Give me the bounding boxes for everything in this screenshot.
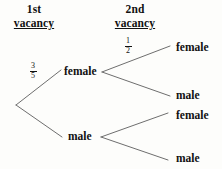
probability-denominator: 5 <box>26 72 40 80</box>
probability-numerator: 1 <box>121 37 135 45</box>
header-first-vacancy: 1st vacancy <box>0 4 68 29</box>
node-stage2-male-1: male <box>176 90 200 102</box>
probability-numerator: 3 <box>26 62 40 70</box>
header-first-vacancy-line2: vacancy <box>0 18 68 30</box>
header-second-vacancy-line2: vacancy <box>100 18 170 30</box>
probability-denominator: 2 <box>121 47 135 55</box>
branch-female-to-male <box>102 72 170 96</box>
branch-root-to-male <box>16 105 62 137</box>
branch-female-to-female <box>102 46 170 72</box>
node-stage2-male-2: male <box>176 153 200 165</box>
branch-male-to-female <box>101 113 168 137</box>
probability-label-one-half: 1 2 <box>121 37 135 55</box>
node-stage2-female-1: female <box>176 42 209 54</box>
header-first-vacancy-line1: 1st <box>0 4 68 16</box>
header-second-vacancy-line1: 2nd <box>100 4 170 16</box>
branch-male-to-male <box>101 137 168 160</box>
header-second-vacancy: 2nd vacancy <box>100 4 170 29</box>
node-stage2-female-2: female <box>176 110 209 122</box>
probability-label-three-fifths: 3 5 <box>26 62 40 80</box>
node-stage1-male: male <box>68 131 92 143</box>
node-stage1-female: female <box>64 66 97 78</box>
probability-tree-diagram: 1st vacancy 2nd vacancy 3 5 1 2 female m… <box>0 0 222 169</box>
